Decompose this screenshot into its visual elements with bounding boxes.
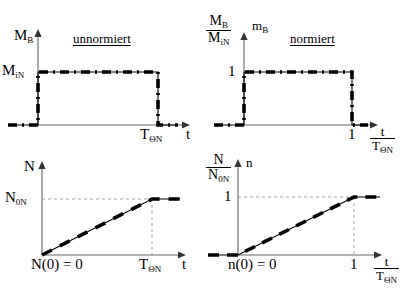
y-axis-fraction-numerator: MB — [206, 14, 231, 30]
y-tick-label-MiN: MiN — [2, 63, 24, 80]
x-tick-label-one: 1 — [350, 257, 358, 272]
x-tick-label-Ttheta: TΘN — [139, 257, 161, 274]
figure-canvas: MB MiN unnormiert TΘN t MB MiN mB normie… — [0, 0, 405, 295]
x-axis-label: t — [186, 127, 190, 142]
x-tick-label-one: 1 — [348, 127, 356, 142]
plot-bottom-left-unnormiert: N N0N N(0) = 0 TΘN t — [0, 147, 202, 295]
y-axis-arrowhead — [240, 32, 247, 40]
y-axis-symbol-mB: mB — [252, 19, 268, 35]
y-axis-fraction-label: MB MiN — [206, 14, 231, 46]
plot-top-right-normiert: MB MiN mB normiert 1 1 t TΘN — [202, 0, 405, 147]
plot-top-left-svg — [0, 0, 202, 147]
plot-top-left-unnormiert: MB MiN unnormiert TΘN t — [0, 0, 202, 147]
x-axis-fraction-label: t TΘN — [374, 255, 399, 285]
y-axis-fraction-numerator: N — [206, 153, 231, 167]
y-tick-label-one: 1 — [224, 189, 232, 204]
ramp-curve-dashed — [42, 199, 180, 255]
y-axis-arrowhead — [34, 29, 41, 37]
pulse-curve-thin — [8, 72, 178, 125]
x-tick-label-Ttheta: TΘN — [140, 127, 162, 144]
y-axis-fraction-label: N N0N — [206, 153, 231, 184]
origin-label: n(0) = 0 — [228, 257, 276, 272]
y-tick-label-N0N: N0N — [5, 190, 27, 207]
y-axis-label: MB — [14, 28, 33, 45]
panel-title-normiert: normiert — [290, 32, 335, 45]
x-axis-fraction-denominator: TΘN — [374, 268, 399, 285]
y-axis-fraction-denominator: MiN — [206, 30, 231, 47]
x-axis-fraction-numerator: t — [374, 255, 399, 268]
pulse-curve-dashdot — [8, 72, 178, 125]
y-axis-symbol-n: n — [246, 156, 253, 169]
panel-title-unnormiert: unnormiert — [73, 32, 131, 45]
x-axis-fraction-numerator: t — [370, 125, 395, 138]
y-axis-arrowhead — [234, 159, 241, 167]
ramp-curve-thin — [42, 199, 180, 255]
y-axis-arrowhead — [38, 161, 45, 169]
plot-bottom-right-normiert: N N0N n 1 n(0) = 0 1 t TΘN — [202, 147, 405, 295]
y-axis-label: N — [24, 159, 35, 174]
pulse-curve-thin — [214, 72, 368, 125]
pulse-curve-dashdot — [214, 72, 368, 125]
x-axis-label: t — [182, 257, 186, 272]
origin-label: N(0) = 0 — [31, 257, 83, 272]
y-axis-fraction-denominator: N0N — [206, 167, 231, 184]
y-tick-label-one: 1 — [228, 64, 236, 79]
